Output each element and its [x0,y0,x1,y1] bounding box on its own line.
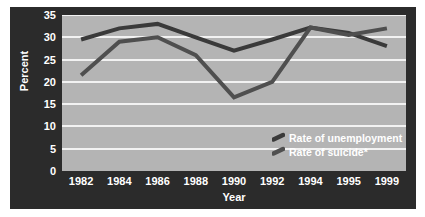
x-axis-tick-label: 1990 [222,175,246,187]
series-line [81,27,387,97]
x-axis-tick-label: 1994 [298,175,322,187]
x-axis-ticks: 198219841986198819901992199419951999 [62,175,406,191]
y-axis-tick-label: 0 [50,165,56,177]
x-axis-title: Year [62,191,406,203]
line-dash-marker-icon [272,145,285,158]
y-axis-tick-label: 25 [44,54,56,66]
legend-item: Rate of suicide* [272,145,412,158]
x-axis-tick-label: 1999 [375,175,399,187]
x-axis-tick-label: 1982 [69,175,93,187]
legend-label: Rate of unemployment [289,132,402,144]
y-axis-tick-label: 35 [44,9,56,21]
chart-legend: Rate of unemploymentRate of suicide* [272,131,412,159]
x-axis-tick-label: 1995 [336,175,360,187]
line-dash-marker-icon [272,131,285,144]
legend-item: Rate of unemployment [272,131,412,144]
y-axis-tick-label: 20 [44,76,56,88]
x-axis-tick-label: 1984 [107,175,131,187]
y-axis-tick-label: 15 [44,98,56,110]
y-axis-tick-label: 5 [50,143,56,155]
y-axis-tick-label: 30 [44,31,56,43]
legend-label: Rate of suicide* [289,146,368,158]
series-line [81,24,387,51]
y-axis-tick-label: 10 [44,120,56,132]
chart-panel: Percent 05101520253035 19821984198619881… [10,7,416,209]
x-axis-tick-label: 1988 [184,175,208,187]
y-axis-ticks: 05101520253035 [10,15,60,171]
x-axis-tick-label: 1986 [145,175,169,187]
x-axis-tick-label: 1992 [260,175,284,187]
chart-figure: Percent 05101520253035 19821984198619881… [0,0,425,217]
